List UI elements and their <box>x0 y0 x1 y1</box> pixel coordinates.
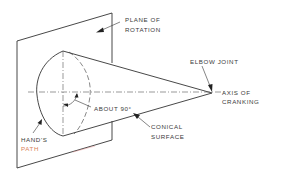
label-plane-line2: ROTATION <box>125 26 161 33</box>
elbow-leader <box>202 66 210 86</box>
hidden-base-curve <box>69 52 90 134</box>
plane-leader <box>102 22 120 30</box>
label-about-90: ABOUT 90° <box>94 105 132 112</box>
hands-path-arrow-icon <box>38 119 43 125</box>
label-elbow-joint: ELBOW JOINT <box>190 58 239 65</box>
cranking-diagram: PLANE OF ROTATION ELBOW JOINT AXIS OF CR… <box>0 0 283 180</box>
conical-leader <box>138 117 150 127</box>
label-axis-line2: CRANKING <box>222 98 259 105</box>
label-hands-line2: PATH <box>21 145 39 152</box>
angle-arrow-left-icon <box>63 104 68 108</box>
label-conical-line1: CONICAL <box>151 123 183 130</box>
hands-path-leader <box>33 123 40 133</box>
label-conical-line2: SURFACE <box>151 133 184 140</box>
angle-arrow-up-icon <box>75 93 79 98</box>
scan-artifact <box>73 146 95 152</box>
label-hands-line1: HAND'S <box>21 136 47 143</box>
elbow-arrow-icon <box>208 84 213 92</box>
label-axis-line1: AXIS OF <box>222 89 251 96</box>
label-plane-line1: PLANE OF <box>125 16 160 23</box>
about-90-leader <box>75 100 91 107</box>
plane-arrow-icon <box>96 28 104 33</box>
